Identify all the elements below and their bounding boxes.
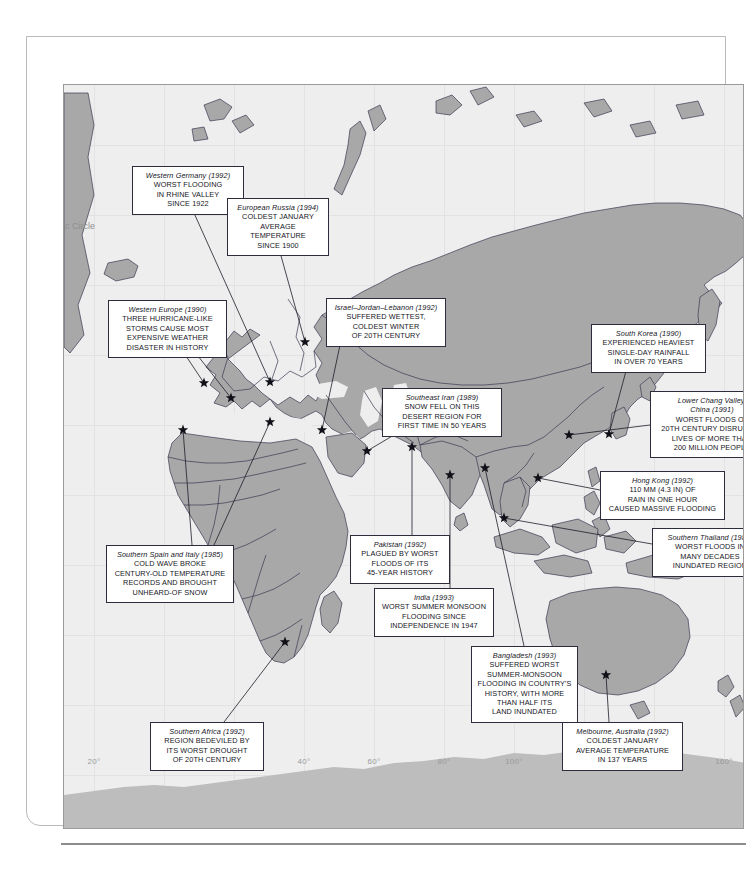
longitude-label-3: 40°: [298, 757, 311, 766]
callout-title-hong-kong: Hong Kong (1992): [606, 476, 719, 485]
callout-lower-chang-valley-china[interactable]: Lower Chang Valley,China (1991)WORST FLO…: [650, 391, 744, 458]
callout-body-european-russia: COLDEST JANUARYAVERAGE TEMPERATURESINCE …: [233, 212, 323, 250]
longitude-label-9: 160°: [715, 757, 733, 766]
callout-title-lower-chang-valley-china: Lower Chang Valley,China (1991): [656, 396, 744, 415]
callout-western-europe[interactable]: Western Europe (1990)THREE HURRICANE-LIK…: [108, 300, 227, 358]
callout-body-southern-africa: REGION BEDEVILED BYITS WORST DROUGHTOF 2…: [156, 736, 258, 764]
callout-southern-spain-italy[interactable]: Southern Spain and Italy (1985)COLD WAVE…: [106, 545, 234, 603]
longitude-label-0: 20°: [88, 757, 101, 766]
callout-southeast-iran[interactable]: Southeast Iran (1989)SNOW FELL ON THISDE…: [382, 388, 502, 437]
callout-india[interactable]: India (1993)WORST SUMMER MONSOONFLOODING…: [374, 588, 494, 637]
callout-body-pakistan: PLAGUED BY WORSTFLOODS OF ITS45-YEAR HIS…: [356, 549, 444, 577]
page-bottom-rule: [61, 843, 746, 845]
callout-body-south-korea: EXPERIENCED HEAVIESTSINGLE-DAY RAINFALLI…: [597, 338, 700, 366]
callout-title-european-russia: European Russia (1994): [233, 203, 323, 212]
callout-body-southern-spain-italy: COLD WAVE BROKECENTURY-OLD TEMPERATURERE…: [112, 559, 228, 597]
callout-body-southern-thailand: WORST FLOODS INMANY DECADESINUNDATED REG…: [658, 542, 744, 570]
callout-pakistan[interactable]: Pakistan (1992)PLAGUED BY WORSTFLOODS OF…: [350, 535, 450, 584]
callout-bangladesh[interactable]: Bangladesh (1993)SUFFERED WORSTSUMMER-MO…: [471, 646, 578, 723]
callout-title-bangladesh: Bangladesh (1993): [477, 651, 572, 660]
callout-body-hong-kong: 110 MM (4.3 IN) OFRAIN IN ONE HOURCAUSED…: [606, 485, 719, 513]
longitude-label-5: 80°: [438, 757, 451, 766]
callout-title-western-europe: Western Europe (1990): [114, 305, 221, 314]
callout-title-south-korea: South Korea (1990): [597, 329, 700, 338]
arctic-circle-label: c Circle: [65, 221, 95, 231]
callout-title-southern-africa: Southern Africa (1992): [156, 727, 258, 736]
callout-body-lower-chang-valley-china: WORST FLOODS OF20TH CENTURY DISRUPTEDLIV…: [656, 415, 744, 453]
callout-southern-thailand[interactable]: Southern Thailand (1988)WORST FLOODS INM…: [652, 528, 744, 577]
world-map-plate[interactable]: 20°0°20°40°60°80°100°120°140°160° c Circ…: [63, 84, 744, 829]
callout-title-melbourne-australia: Melbourne, Australia (1992): [568, 727, 677, 736]
callout-title-pakistan: Pakistan (1992): [356, 540, 444, 549]
callout-body-melbourne-australia: COLDEST JANUARYAVERAGE TEMPERATUREIN 137…: [568, 736, 677, 764]
callout-title-southern-thailand: Southern Thailand (1988): [658, 533, 744, 542]
callout-body-israel-jordan-lebanon: SUFFERED WETTEST,COLDEST WINTEROF 20TH C…: [332, 312, 440, 340]
callout-title-southern-spain-italy: Southern Spain and Italy (1985): [112, 550, 228, 559]
callout-european-russia[interactable]: European Russia (1994)COLDEST JANUARYAVE…: [227, 198, 329, 256]
longitude-label-6: 100°: [505, 757, 523, 766]
callout-south-korea[interactable]: South Korea (1990)EXPERIENCED HEAVIESTSI…: [591, 324, 706, 373]
callout-body-western-germany: WORST FLOODINGIN RHINE VALLEYSINCE 1922: [138, 180, 238, 208]
callout-title-western-germany: Western Germany (1992): [138, 171, 238, 180]
callout-body-southeast-iran: SNOW FELL ON THISDESERT REGION FORFIRST …: [388, 402, 496, 430]
callout-body-western-europe: THREE HURRICANE-LIKESTORMS CAUSE MOSTEXP…: [114, 314, 221, 352]
callout-southern-africa[interactable]: Southern Africa (1992)REGION BEDEVILED B…: [150, 722, 264, 771]
callout-body-india: WORST SUMMER MONSOONFLOODING SINCEINDEPE…: [380, 602, 488, 630]
callout-title-israel-jordan-lebanon: Israel–Jordan–Lebanon (1992): [332, 303, 440, 312]
callout-body-bangladesh: SUFFERED WORSTSUMMER-MONSOONFLOODING IN …: [477, 660, 572, 716]
callout-israel-jordan-lebanon[interactable]: Israel–Jordan–Lebanon (1992)SUFFERED WET…: [326, 298, 446, 347]
page-frame: 20°0°20°40°60°80°100°120°140°160° c Circ…: [26, 36, 726, 826]
callout-hong-kong[interactable]: Hong Kong (1992)110 MM (4.3 IN) OFRAIN I…: [600, 471, 725, 520]
callout-melbourne-australia[interactable]: Melbourne, Australia (1992)COLDEST JANUA…: [562, 722, 683, 771]
callout-title-india: India (1993): [380, 593, 488, 602]
callout-title-southeast-iran: Southeast Iran (1989): [388, 393, 496, 402]
longitude-label-4: 60°: [368, 757, 381, 766]
